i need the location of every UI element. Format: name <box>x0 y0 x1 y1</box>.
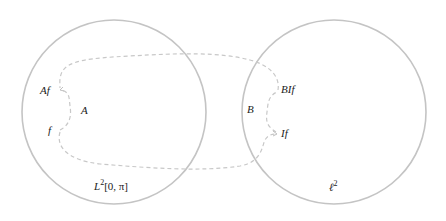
space-label-L2: L2[0, π] <box>94 179 128 192</box>
point-label-f: f <box>48 125 51 136</box>
operator-A-arrow <box>60 90 71 130</box>
space-circle-L2 <box>22 20 206 204</box>
space-label-l2: ℓ2 <box>329 180 338 193</box>
arrowhead-Af <box>60 87 64 91</box>
diagram-canvas: Af f BIf If A B L2[0, π] ℓ2 <box>0 0 446 221</box>
operator-B-arrow <box>267 92 277 132</box>
operator-label-B: B <box>247 104 254 115</box>
isomorphism-I-arrow <box>59 132 276 169</box>
diagram-graphics <box>0 0 446 221</box>
space-circle-l2 <box>242 20 426 204</box>
point-label-BIf: BIf <box>281 84 294 95</box>
space-label-L2-interval: [0, π] <box>104 180 128 192</box>
space-label-l2-sup: 2 <box>334 179 338 188</box>
point-label-Af: Af <box>40 85 50 96</box>
operator-label-A: A <box>81 105 88 116</box>
point-label-If: If <box>281 128 288 139</box>
